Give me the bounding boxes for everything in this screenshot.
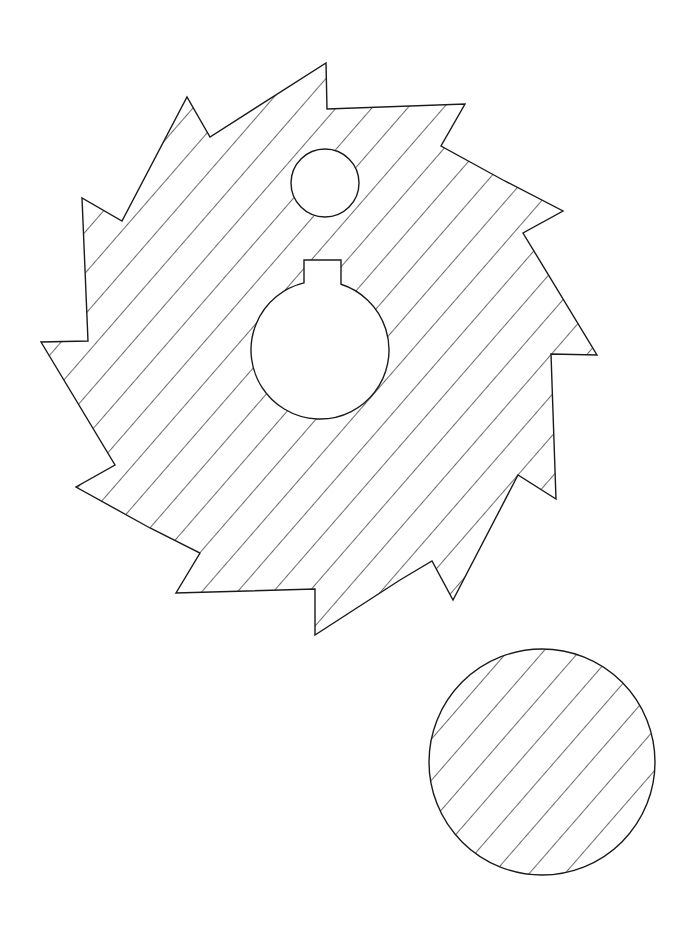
technical-drawing [0,0,691,927]
saw-blade-hatched [41,63,597,635]
hatched-disc [429,649,655,875]
